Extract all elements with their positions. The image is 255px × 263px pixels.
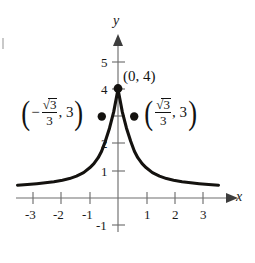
x-tick-label--2: -2 — [53, 208, 64, 221]
x-tick-label--1: -1 — [82, 208, 93, 221]
x-tick-label-3: 3 — [200, 208, 207, 221]
graph-figure: y x -3 -2 -1 1 2 3 5 4 2 1 -1 (0, 4) (−√… — [0, 0, 255, 263]
right-denominator: 3 — [155, 114, 171, 127]
left-ycoord-text: , 3 — [58, 105, 73, 120]
left-minus-sign: − — [31, 105, 40, 120]
x-tick-label--3: -3 — [25, 208, 36, 221]
right-paren-open: ( — [144, 99, 153, 127]
left-denominator: 3 — [42, 114, 58, 127]
vertex-annotation: (0, 4) — [123, 69, 156, 84]
y-tick-label-4: 4 — [101, 83, 108, 96]
plot-canvas — [0, 0, 255, 263]
y-axis-arrowhead — [113, 34, 123, 46]
radical-overbar — [161, 98, 171, 99]
x-tick-label-1: 1 — [144, 208, 151, 221]
radical-overbar — [48, 98, 58, 99]
y-tick-label-2: 2 — [101, 137, 108, 150]
left-point-annotation: (−√33, 3) — [20, 98, 85, 128]
left-point-marker — [98, 112, 106, 120]
right-point-marker — [130, 112, 138, 120]
left-sqrt3-numerator: √3 — [42, 98, 58, 111]
right-ycoord-text: , 3 — [172, 105, 187, 120]
x-tick-label-2: 2 — [172, 208, 179, 221]
right-fraction: √33 — [155, 98, 171, 128]
y-tick-label-1: 1 — [101, 165, 108, 178]
y-axis-label: y — [113, 14, 119, 28]
left-fraction: √33 — [42, 98, 58, 128]
left-paren-close: ) — [75, 99, 84, 127]
right-point-annotation: (√33, 3) — [143, 98, 198, 128]
left-paren-open: ( — [21, 99, 30, 127]
right-sqrt3-numerator: √3 — [155, 98, 171, 111]
right-numerator-text: √3 — [156, 97, 170, 112]
y-tick-label--1: -1 — [96, 219, 107, 232]
left-numerator-text: √3 — [43, 97, 57, 112]
vertex-point-marker — [114, 84, 123, 93]
x-axis-label: x — [236, 190, 242, 204]
right-paren-close: ) — [188, 99, 197, 127]
y-tick-label-5: 5 — [101, 56, 108, 69]
